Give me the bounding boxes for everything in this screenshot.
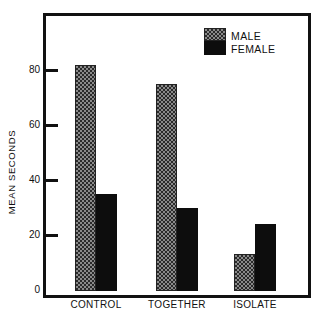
x-category-label: CONTROL bbox=[56, 299, 136, 311]
y-tick bbox=[46, 234, 58, 237]
y-tick-label: 40 bbox=[14, 174, 40, 186]
legend-female-label: FEMALE bbox=[231, 43, 275, 55]
bar-isolate-male bbox=[234, 254, 255, 291]
bar-together-male bbox=[156, 84, 177, 291]
bar-control-female bbox=[96, 194, 117, 291]
bar-chart: 020406080 MEAN SECONDS CONTROLTOGETHERIS… bbox=[0, 0, 320, 317]
x-category-label: ISOLATE bbox=[215, 299, 295, 311]
legend-female-swatch bbox=[204, 41, 226, 55]
y-tick bbox=[46, 124, 58, 127]
bar-isolate-female bbox=[255, 224, 276, 291]
y-tick-label: 0 bbox=[14, 284, 40, 296]
legend-swatch bbox=[204, 28, 226, 55]
legend-male-label: MALE bbox=[231, 30, 261, 42]
y-tick-label: 80 bbox=[14, 64, 40, 76]
bar-together-female bbox=[177, 208, 198, 292]
y-tick-label: 20 bbox=[14, 229, 40, 241]
bar-control-male bbox=[75, 65, 96, 292]
y-tick bbox=[46, 179, 58, 182]
y-tick bbox=[46, 69, 58, 72]
y-tick-label: 60 bbox=[14, 119, 40, 131]
x-category-label: TOGETHER bbox=[137, 299, 217, 311]
legend-male-swatch bbox=[204, 28, 226, 41]
y-axis-label: MEAN SECONDS bbox=[6, 130, 17, 214]
